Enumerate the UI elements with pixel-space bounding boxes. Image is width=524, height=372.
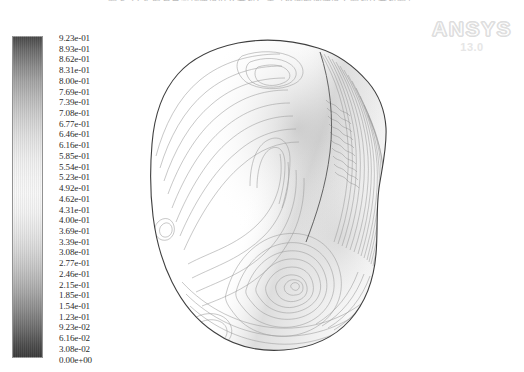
colorbar-tick-label: 8.93e-01 [59, 45, 90, 54]
contour-plot [130, 26, 400, 366]
colorbar-tick-label: 5.23e-01 [59, 173, 90, 182]
ansys-logo-text: ANSYS [424, 18, 520, 39]
colorbar-tick-label: 6.16e-01 [59, 141, 90, 150]
colorbar-tick-label: 7.39e-01 [59, 98, 90, 107]
colorbar-tick-label: 8.00e-01 [59, 77, 90, 86]
colorbar-tick-label: 0.00e+00 [59, 356, 92, 365]
colorbar-tick-label: 4.62e-01 [59, 195, 90, 204]
colorbar-tick-label: 2.46e-01 [59, 270, 90, 279]
colorbar-tick-label: 1.85e-01 [59, 291, 90, 300]
colorbar-tick-label: 2.77e-01 [59, 259, 90, 268]
colorbar-tick-label: 3.39e-01 [59, 238, 90, 247]
ansys-watermark: ANSYS 13.0 [424, 18, 520, 53]
ansys-contour-figure: 图 5-22 扩散室总流场速度/0.9 分析结果（不同截面速度云图对比分析图） … [0, 0, 524, 372]
colorbar-tick-label: 6.77e-01 [59, 120, 90, 129]
colorbar-tick-label: 3.08e-02 [59, 345, 90, 354]
colorbar-tick-label: 6.16e-02 [59, 334, 90, 343]
colorbar-tick-label: 4.00e-01 [59, 216, 90, 225]
contour-field [130, 26, 400, 366]
colorbar-tick-label: 3.08e-01 [59, 248, 90, 257]
colorbar-tick-label: 7.08e-01 [59, 109, 90, 118]
colorbar-tick-label: 3.69e-01 [59, 227, 90, 236]
colorbar-gradient [12, 36, 43, 358]
colorbar-tick-label: 5.54e-01 [59, 163, 90, 172]
colorbar-tick-label: 5.85e-01 [59, 152, 90, 161]
colorbar-tick-label: 4.31e-01 [59, 206, 90, 215]
colorbar-tick-label: 8.62e-01 [59, 55, 90, 64]
colorbar-tick-label: 7.69e-01 [59, 88, 90, 97]
colorbar-tick-label: 9.23e-02 [59, 323, 90, 332]
colorbar-tick-label: 1.23e-01 [59, 313, 90, 322]
colorbar-tick-labels: 9.23e-018.93e-018.62e-018.31e-018.00e-01… [59, 34, 115, 364]
colorbar-tick-label: 6.46e-01 [59, 130, 90, 139]
colorbar-tick-label: 1.54e-01 [59, 302, 90, 311]
contour-plot-svg [130, 26, 400, 366]
figure-caption: 图 5-22 扩散室总流场速度/0.9 分析结果（不同截面速度云图对比分析图） [0, 0, 524, 1]
colorbar-tick-label: 4.92e-01 [59, 184, 90, 193]
colorbar [12, 36, 43, 358]
colorbar-tick-label: 2.15e-01 [59, 281, 90, 290]
ansys-version-text: 13.0 [424, 42, 520, 53]
colorbar-tick-label: 9.23e-01 [59, 34, 90, 43]
colorbar-tick-label: 8.31e-01 [59, 66, 90, 75]
